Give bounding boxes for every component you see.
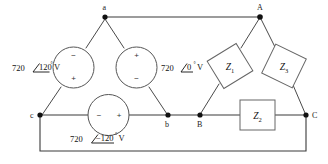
source-bottom-branch: − + (40, 95, 168, 136)
source-left-unit: V (54, 62, 61, 72)
node-label-C: C (312, 111, 317, 120)
source-left-degree: ° (51, 61, 53, 67)
source-bottom-magnitude: 720 (70, 134, 83, 144)
wire-source-right-to-b (149, 87, 167, 114)
wire-A-to-z1 (241, 19, 259, 48)
wire-A-to-z3 (261, 19, 275, 47)
impedance-z1-branch: Z1 (201, 19, 259, 113)
source-bottom-angle: −120 (96, 133, 114, 143)
circuit-diagram-canvas: − + + − − + Z1 (0, 0, 328, 164)
node-dot-C (303, 112, 308, 117)
node-label-c: c (30, 111, 34, 120)
node-label-A: A (257, 3, 263, 12)
node-dot-a (102, 14, 107, 19)
impedance-z2-branch: Z2 (200, 100, 306, 130)
source-right-magnitude: 720 (161, 63, 174, 73)
node-dot-A (257, 14, 263, 20)
wire-a-to-source-left (86, 19, 105, 48)
node-label-b: b (165, 120, 169, 129)
source-left-label-group: 720 120 ° V (12, 61, 61, 73)
node-dot-b (165, 112, 170, 117)
source-left-magnitude: 720 (12, 63, 25, 73)
source-bottom-terminal-right: + (117, 111, 122, 120)
source-right-angle: 0 (187, 62, 191, 72)
node-dot-B (197, 112, 202, 117)
source-bottom-symbol (88, 95, 129, 136)
source-bottom-label-group: 720 −120 ° V (70, 132, 126, 144)
source-bottom-degree: ° (115, 132, 117, 138)
wire-z1-to-B (201, 84, 219, 113)
source-left-terminal-top: − (71, 51, 76, 60)
source-right-terminal-top: + (134, 51, 139, 60)
source-bottom-terminal-left: − (97, 111, 102, 120)
circuit-schematic: − + + − − + Z1 (0, 0, 328, 164)
node-dot-c (37, 112, 42, 117)
wire-source-left-to-c (42, 87, 61, 115)
source-right-unit: V (197, 62, 204, 72)
wire-a-to-source-right (105, 19, 124, 48)
node-label-a: a (103, 3, 107, 12)
source-right-terminal-bottom: − (134, 74, 139, 83)
wire-z3-to-C (293, 85, 305, 113)
node-label-B: B (197, 120, 202, 129)
source-right-label-group: 720 0 ° V (161, 61, 204, 73)
source-left-terminal-bottom: + (71, 74, 76, 83)
source-bottom-unit: V (119, 133, 126, 143)
source-right-degree: ° (194, 61, 196, 67)
impedance-z3-branch: Z3 (261, 19, 306, 113)
